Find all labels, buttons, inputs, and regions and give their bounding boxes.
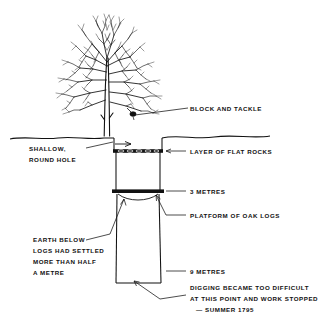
label-shallow-round-hole-line1: SHALLOW, — [29, 145, 66, 152]
tree-illustration — [56, 14, 162, 136]
label-earth-below-line1: EARTH BELOW — [33, 236, 85, 243]
label-block-and-tackle: BLOCK AND TACKLE — [190, 105, 262, 112]
diagram-canvas: BLOCK AND TACKLE LAYER OF FLAT ROCKS SHA… — [0, 0, 335, 328]
leader-earth-below — [86, 199, 124, 240]
leader-earth-below-arrow — [121, 199, 127, 206]
money-pit-diagram: BLOCK AND TACKLE LAYER OF FLAT ROCKS SHA… — [0, 0, 335, 328]
tree-trunk — [101, 58, 113, 136]
leader-block-and-tackle — [135, 108, 188, 115]
leader-digging-stopped — [134, 281, 186, 299]
label-earth-below-line2: LOGS HAD SETTLED — [33, 247, 104, 254]
leader-platform-oak-logs — [156, 195, 186, 215]
shallow-round-hole-marker — [115, 142, 131, 147]
shaft-wall-right-lower — [159, 194, 161, 283]
shaft — [114, 138, 162, 283]
label-digging-line3: — SUMMER 1795 — [196, 306, 254, 313]
label-shallow-round-hole-line2: ROUND HOLE — [29, 156, 76, 163]
label-digging-line2: AT THIS POINT AND WORK STOPPED — [190, 295, 318, 302]
label-earth-below-line3: MORE THAN HALF — [33, 258, 96, 265]
ground-surface-line — [10, 136, 270, 139]
leader-shallow-round-hole — [86, 142, 113, 148]
layer-of-flat-rocks — [113, 149, 163, 153]
block-and-tackle — [127, 108, 136, 120]
label-layer-of-flat-rocks: LAYER OF FLAT ROCKS — [190, 148, 272, 155]
label-three-metres: 3 METRES — [190, 188, 225, 195]
label-platform-of-oak-logs: PLATFORM OF OAK LOGS — [190, 212, 280, 219]
label-digging-line1: DIGGING BECAME TOO DIFFICULT — [190, 284, 309, 291]
label-earth-below-line4: A METRE — [33, 269, 64, 276]
label-nine-metres: 9 METRES — [190, 268, 225, 275]
shaft-wall-left-lower — [116, 194, 117, 283]
diagram-labels: BLOCK AND TACKLE LAYER OF FLAT ROCKS SHA… — [29, 105, 318, 313]
